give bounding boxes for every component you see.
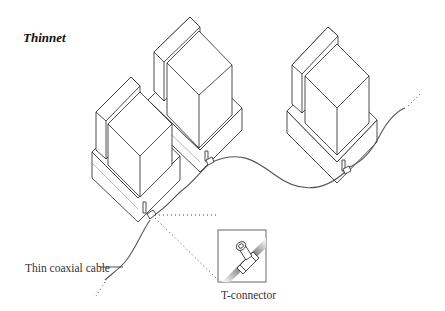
- t-connector-label: T-connector: [221, 289, 276, 301]
- inset-callout-bottom: [155, 218, 218, 280]
- thin-coaxial-cable-label: Thin coaxial cable: [25, 262, 110, 274]
- computer-right: [287, 27, 377, 183]
- t-connector-inset: [218, 230, 266, 282]
